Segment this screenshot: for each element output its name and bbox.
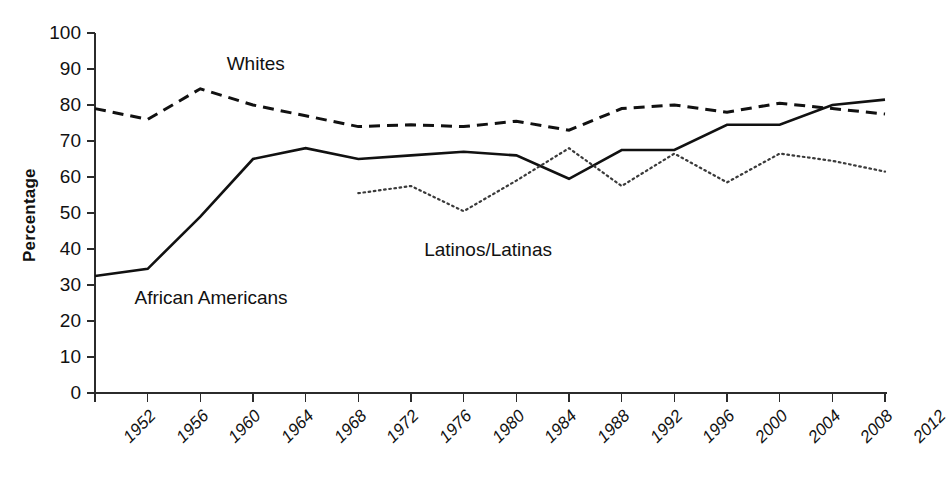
- data-series: [95, 89, 885, 276]
- series-line-african-americans: [95, 100, 885, 276]
- axes: [87, 33, 887, 402]
- series-line-latinos-latinas: [358, 148, 885, 211]
- x-tick-label: 2012: [910, 407, 949, 446]
